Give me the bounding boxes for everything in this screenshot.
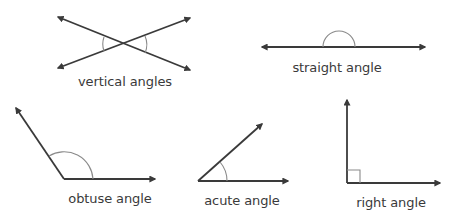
straight-angle-arc	[323, 31, 355, 47]
right-angle-label: right angle	[356, 195, 426, 210]
angles-diagram	[0, 0, 454, 221]
vertical-angles-label: vertical angles	[78, 74, 172, 89]
straight-angle-figure	[262, 31, 425, 47]
obtuse-ray-left	[16, 108, 64, 179]
acute-angle-label: acute angle	[204, 193, 280, 208]
acute-angle-figure	[198, 124, 288, 181]
left-angle-arc	[103, 37, 104, 51]
right-angle-arc	[145, 36, 147, 53]
obtuse-angle-figure	[16, 108, 155, 179]
acute-ray-up	[198, 124, 262, 181]
right-angle-square	[347, 170, 360, 183]
right-angle-figure	[347, 100, 440, 183]
acute-angle-arc	[220, 162, 227, 181]
vertical-angles-figure	[58, 17, 190, 70]
obtuse-angle-label: obtuse angle	[68, 191, 151, 206]
straight-angle-label: straight angle	[292, 60, 381, 75]
